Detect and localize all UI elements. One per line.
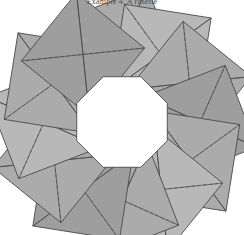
rosette-diagram [0,0,244,235]
figure-root: Example 4. A rosette [0,0,244,235]
center-hole-layer [77,77,168,168]
center-octagon-hole [77,77,168,168]
